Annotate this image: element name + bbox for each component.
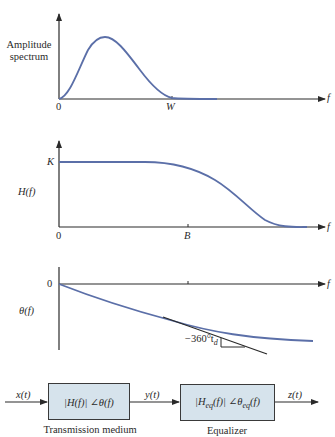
transmission-medium-block: |H(f)| ∠θ(f): [48, 383, 130, 420]
magnitude-response-plot: [59, 141, 325, 227]
input-signal-label: x(t): [16, 389, 31, 401]
magnitude-f-label: f: [327, 221, 330, 233]
amplitude-spectrum-plot: [59, 14, 325, 99]
phase-ylabel-text: θ(f): [19, 305, 34, 316]
amplitude-curve: [59, 37, 217, 99]
eq-sub-1: eq: [206, 401, 214, 410]
equalizer-transfer-function: |Heq(f)| ∠θeq(f): [195, 395, 260, 410]
slope-label-text: −360°t: [185, 333, 214, 344]
magnitude-ylabel: H(f): [18, 186, 36, 198]
amplitude-ylabel-line2: spectrum: [2, 51, 56, 63]
phase-ylabel: θ(f): [19, 305, 34, 317]
eq-text-pre: |H: [195, 396, 205, 407]
intermediate-signal-label: y(t): [145, 389, 160, 401]
eq-text-mid: (f)| ∠θ: [213, 396, 242, 407]
magnitude-curve: [59, 162, 307, 227]
transmission-medium-caption: Transmission medium: [40, 424, 140, 436]
equalizer-caption: Equalizer: [187, 425, 267, 437]
equalizer-block: |Heq(f)| ∠θeq(f): [180, 384, 275, 421]
k-label: K: [47, 156, 54, 168]
amplitude-origin-label: 0: [56, 101, 61, 113]
slope-label: −360°td: [185, 333, 218, 349]
b-label: B: [184, 230, 190, 242]
eq-text-post: (f): [250, 396, 260, 407]
phase-f-label: f: [327, 278, 330, 290]
w-label: W: [166, 101, 175, 113]
phase-zero-label: 0: [47, 278, 52, 290]
amplitude-ylabel-line1: Amplitude: [2, 39, 56, 51]
slope-label-sub: d: [214, 338, 218, 347]
eq-sub-2: eq: [242, 401, 250, 410]
amplitude-ylabel: Amplitude spectrum: [2, 39, 56, 63]
amplitude-f-label: f: [327, 92, 330, 104]
diagram-canvas: [0, 0, 335, 437]
transmission-medium-transfer-function: |H(f)| ∠θ(f): [64, 396, 114, 408]
magnitude-origin-label: 0: [56, 230, 61, 242]
output-signal-label: z(t): [288, 389, 302, 401]
